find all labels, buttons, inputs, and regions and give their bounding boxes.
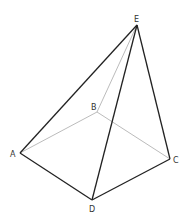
edge-ab xyxy=(20,112,97,153)
vertex-label-b: B xyxy=(91,103,97,112)
pyramid-diagram: A B C D E xyxy=(0,0,187,222)
edge-de xyxy=(92,25,137,200)
vertex-label-d: D xyxy=(89,205,95,214)
edge-be xyxy=(97,25,137,112)
visible-edges xyxy=(20,25,170,200)
vertex-label-e: E xyxy=(134,15,139,24)
hidden-edges xyxy=(20,25,170,159)
edge-ce xyxy=(137,25,170,159)
vertex-label-a: A xyxy=(10,150,16,159)
edge-ae xyxy=(20,25,137,153)
edge-dc xyxy=(92,159,170,200)
edge-ad xyxy=(20,153,92,200)
vertex-label-c: C xyxy=(173,156,179,165)
